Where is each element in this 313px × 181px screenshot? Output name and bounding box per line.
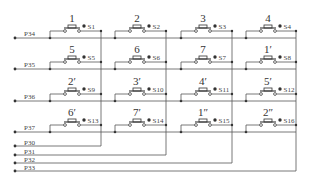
contact-icon	[274, 124, 277, 127]
key-label: 1′	[264, 43, 272, 55]
key-label: 5′	[264, 75, 272, 87]
switch-label: S11	[219, 86, 230, 94]
key-switch-s10: S103′	[114, 75, 168, 102]
row-port-label: P34	[24, 30, 35, 38]
contact-icon	[274, 93, 277, 96]
switch-label: S2	[153, 23, 161, 31]
contact-icon	[209, 93, 212, 96]
terminal-dot	[14, 170, 17, 173]
row-wire-p36: P36	[14, 93, 296, 102]
key-label: 4	[265, 12, 271, 24]
key-switch-s15: S151″	[180, 106, 234, 133]
led-dot-icon	[147, 55, 150, 58]
switch-label: S10	[153, 86, 164, 94]
led-dot-icon	[213, 87, 216, 90]
contact-icon	[143, 61, 146, 64]
junction-dot	[295, 30, 297, 32]
contact-icon	[129, 61, 132, 64]
led-dot-icon	[278, 24, 281, 27]
key-switch-s7: S77	[180, 43, 234, 70]
key-switch-s1: S11	[49, 12, 103, 39]
junction-dot	[100, 61, 102, 63]
row-wire-p35: P35	[14, 61, 296, 70]
contact-icon	[78, 61, 81, 64]
contact-icon	[143, 30, 146, 33]
contact-icon	[64, 93, 67, 96]
terminal-dot	[14, 154, 17, 157]
key-switch-s9: S92′	[49, 75, 103, 102]
led-dot-icon	[147, 87, 150, 90]
row-port-label: P35	[24, 61, 35, 69]
led-dot-icon	[147, 24, 150, 27]
key-switch-s8: S81′	[245, 43, 297, 70]
junction-dot	[295, 93, 297, 95]
contact-icon	[78, 93, 81, 96]
switch-label: S15	[219, 117, 230, 125]
keypad-matrix-diagram: P34P35P36P37P30P31P32P33S11S22S33S44S55S…	[0, 0, 313, 181]
col-wire-p32: P32	[14, 31, 232, 164]
row-port-label: P37	[24, 124, 35, 132]
junction-dot	[231, 124, 233, 126]
key-label: 2″	[263, 106, 273, 118]
terminal-dot	[14, 100, 17, 103]
key-label: 7′	[133, 106, 141, 118]
contact-icon	[129, 30, 132, 33]
contact-icon	[274, 61, 277, 64]
key-switch-s2: S22	[114, 12, 168, 39]
switch-label: S6	[153, 54, 161, 62]
row-port-label: P36	[24, 93, 35, 101]
col-port-label: P32	[24, 156, 35, 164]
led-dot-icon	[213, 55, 216, 58]
key-label: 3′	[133, 75, 141, 87]
row-wire-p37: P37	[14, 124, 296, 133]
contact-icon	[195, 93, 198, 96]
led-dot-icon	[278, 55, 281, 58]
led-dot-icon	[147, 118, 150, 121]
led-dot-icon	[82, 87, 85, 90]
led-dot-icon	[278, 87, 281, 90]
col-port-label: P33	[24, 164, 35, 172]
contact-icon	[260, 61, 263, 64]
contact-icon	[209, 61, 212, 64]
key-label: 3	[200, 12, 206, 24]
switch-label: S7	[219, 54, 227, 62]
key-label: 6′	[68, 106, 76, 118]
contact-icon	[78, 30, 81, 33]
junction-dot	[165, 93, 167, 95]
key-label: 6	[134, 43, 140, 55]
key-switch-s4: S44	[245, 12, 297, 39]
contact-icon	[143, 93, 146, 96]
key-switch-s11: S114′	[180, 75, 234, 102]
terminal-dot	[14, 131, 17, 134]
key-switch-s5: S55	[49, 43, 103, 70]
key-label: 2′	[68, 75, 76, 87]
contact-icon	[274, 30, 277, 33]
col-port-label: P30	[24, 139, 35, 147]
switch-label: S9	[88, 86, 96, 94]
junction-dot	[295, 124, 297, 126]
junction-dot	[100, 30, 102, 32]
col-port-label: P31	[24, 148, 35, 156]
contact-icon	[64, 30, 67, 33]
junction-dot	[100, 93, 102, 95]
terminal-dot	[14, 145, 17, 148]
row-wire-p34: P34	[14, 30, 296, 39]
key-label: 2	[134, 12, 140, 24]
contact-icon	[209, 124, 212, 127]
junction-dot	[231, 61, 233, 63]
key-switch-s3: S33	[180, 12, 234, 39]
key-label: 1	[69, 12, 75, 24]
switch-label: S1	[88, 23, 96, 31]
contact-icon	[260, 124, 263, 127]
led-dot-icon	[82, 55, 85, 58]
led-dot-icon	[213, 24, 216, 27]
junction-dot	[100, 124, 102, 126]
contact-icon	[129, 93, 132, 96]
switch-label: S3	[219, 23, 227, 31]
key-label: 5	[69, 43, 75, 55]
switch-label: S12	[284, 86, 295, 94]
key-switch-s16: S162″	[245, 106, 297, 133]
junction-dot	[165, 124, 167, 126]
switch-label: S13	[88, 117, 99, 125]
contact-icon	[64, 124, 67, 127]
